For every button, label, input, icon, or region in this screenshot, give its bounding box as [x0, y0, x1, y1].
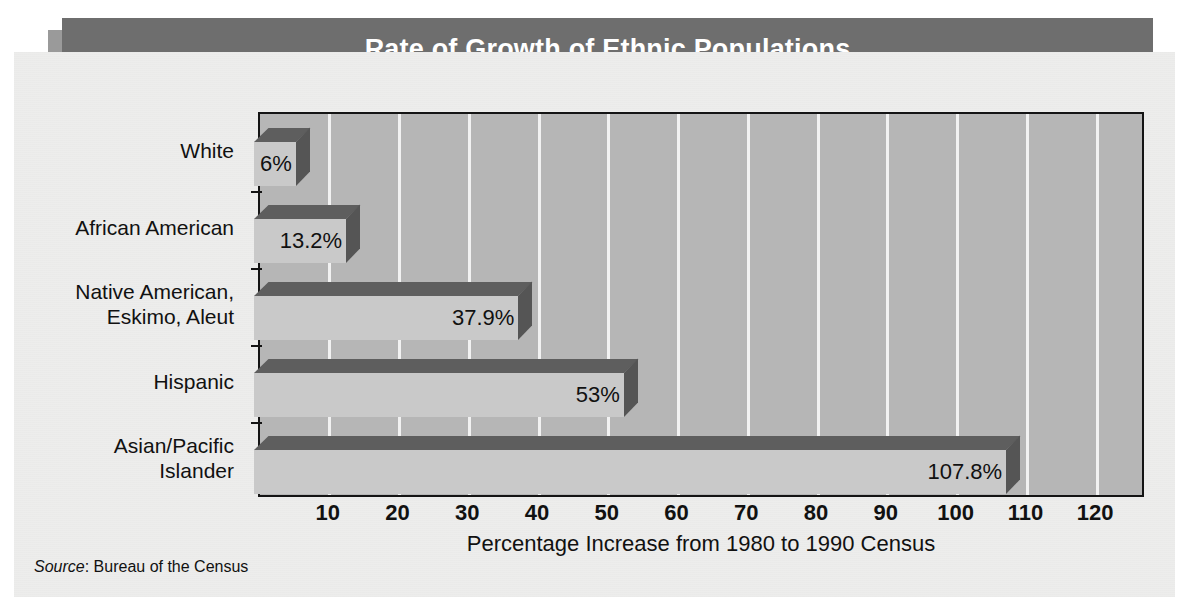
- y-axis-tick: [251, 191, 262, 193]
- source-note: Source: Bureau of the Census: [34, 558, 248, 576]
- x-tick-label: 40: [525, 500, 549, 526]
- gridline: [1096, 114, 1099, 495]
- source-label: Source: [34, 558, 85, 575]
- bar-top-face: [254, 205, 361, 219]
- x-tick-label: 100: [937, 500, 974, 526]
- category-label: Native American, Eskimo, Aleut: [75, 279, 248, 329]
- category-axis-labels: WhiteAfrican AmericanNative American, Es…: [0, 112, 248, 497]
- category-label: Hispanic: [153, 369, 248, 394]
- bar-value-label: 53%: [260, 382, 620, 408]
- bar-value-label: 37.9%: [260, 305, 514, 331]
- y-axis-tick: [251, 422, 262, 424]
- x-tick-label: 70: [734, 500, 758, 526]
- y-axis-tick: [251, 345, 262, 347]
- bar-value-label: 6%: [260, 151, 292, 177]
- x-tick-label: 60: [664, 500, 688, 526]
- x-tick-label: 20: [385, 500, 409, 526]
- bar-top-face: [254, 282, 533, 296]
- category-label: Asian/Pacific Islander: [114, 433, 248, 483]
- bar-top-face: [254, 359, 638, 373]
- bar-value-label: 107.8%: [260, 459, 1002, 485]
- x-tick-label: 80: [804, 500, 828, 526]
- x-axis-tick-labels: 102030405060708090100110120: [258, 500, 1144, 530]
- chart-plot-frame: 6%13.2%37.9%53%107.8%: [258, 112, 1144, 497]
- bar-top-face: [254, 436, 1021, 450]
- category-label: African American: [75, 215, 248, 240]
- x-tick-label: 50: [595, 500, 619, 526]
- x-tick-label: 10: [316, 500, 340, 526]
- x-tick-label: 30: [455, 500, 479, 526]
- source-text: : Bureau of the Census: [85, 558, 249, 575]
- x-tick-label: 120: [1077, 500, 1114, 526]
- plot-area: 6%13.2%37.9%53%107.8%: [260, 114, 1142, 495]
- x-tick-label: 90: [874, 500, 898, 526]
- category-label: White: [180, 138, 248, 163]
- x-tick-label: 110: [1008, 500, 1044, 526]
- gridline: [1026, 114, 1029, 495]
- x-axis-title: Percentage Increase from 1980 to 1990 Ce…: [258, 531, 1144, 557]
- y-axis-tick: [251, 268, 262, 270]
- bar-value-label: 13.2%: [260, 228, 342, 254]
